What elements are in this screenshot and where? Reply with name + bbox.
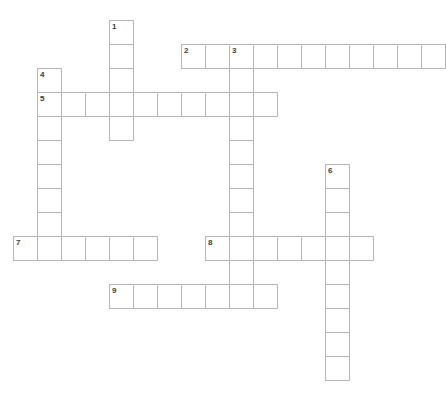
crossword-cell[interactable] (325, 212, 350, 237)
crossword-cell[interactable] (277, 236, 302, 261)
crossword-cell[interactable] (181, 284, 206, 309)
crossword-cell[interactable] (229, 284, 254, 309)
crossword-cell[interactable] (397, 44, 422, 69)
crossword-cell[interactable] (109, 236, 134, 261)
crossword-cell[interactable] (253, 92, 278, 117)
crossword-cell[interactable] (157, 284, 182, 309)
crossword-cell[interactable] (301, 236, 326, 261)
crossword-cell[interactable] (37, 164, 62, 189)
crossword-cell[interactable] (325, 236, 350, 261)
crossword-cell[interactable] (421, 44, 446, 69)
crossword-cell[interactable] (325, 164, 350, 189)
crossword-cell[interactable] (37, 68, 62, 93)
crossword-cell[interactable] (37, 92, 62, 117)
crossword-cell[interactable] (301, 44, 326, 69)
crossword-cell[interactable] (133, 236, 158, 261)
crossword-cell[interactable] (157, 92, 182, 117)
crossword-cell[interactable] (325, 356, 350, 381)
crossword-cell[interactable] (253, 284, 278, 309)
crossword-cell[interactable] (37, 212, 62, 237)
crossword-cell[interactable] (205, 44, 230, 69)
crossword-cell[interactable] (37, 188, 62, 213)
crossword-cell[interactable] (85, 92, 110, 117)
crossword-cell[interactable] (229, 260, 254, 285)
crossword-cell[interactable] (181, 44, 206, 69)
crossword-cell[interactable] (109, 68, 134, 93)
crossword-cell[interactable] (229, 212, 254, 237)
crossword-cell[interactable] (109, 92, 134, 117)
crossword-cell[interactable] (253, 44, 278, 69)
crossword-cell[interactable] (349, 236, 374, 261)
crossword-cell[interactable] (181, 92, 206, 117)
crossword-cell[interactable] (109, 116, 134, 141)
crossword-cell[interactable] (133, 92, 158, 117)
crossword-cell[interactable] (37, 116, 62, 141)
crossword-cell[interactable] (61, 92, 86, 117)
crossword-cell[interactable] (253, 236, 278, 261)
crossword-cell[interactable] (109, 20, 134, 45)
crossword-cell[interactable] (109, 44, 134, 69)
crossword-cell[interactable] (109, 284, 134, 309)
crossword-cell[interactable] (205, 92, 230, 117)
crossword-cell[interactable] (229, 140, 254, 165)
crossword-cell[interactable] (205, 284, 230, 309)
crossword-cell[interactable] (85, 236, 110, 261)
crossword-cell[interactable] (133, 284, 158, 309)
crossword-cell[interactable] (325, 284, 350, 309)
crossword-cell[interactable] (229, 68, 254, 93)
crossword-cell[interactable] (325, 188, 350, 213)
crossword-cell[interactable] (349, 44, 374, 69)
crossword-cell[interactable] (229, 92, 254, 117)
crossword-cell[interactable] (325, 44, 350, 69)
crossword-cell[interactable] (325, 308, 350, 333)
crossword-cell[interactable] (373, 44, 398, 69)
crossword-cell[interactable] (205, 236, 230, 261)
crossword-cell[interactable] (229, 188, 254, 213)
crossword-cell[interactable] (229, 44, 254, 69)
crossword-cell[interactable] (325, 260, 350, 285)
crossword-cell[interactable] (13, 236, 38, 261)
crossword-cell[interactable] (229, 116, 254, 141)
crossword-cell[interactable] (325, 332, 350, 357)
crossword-cell[interactable] (277, 44, 302, 69)
crossword-cell[interactable] (61, 236, 86, 261)
crossword-cell[interactable] (229, 236, 254, 261)
crossword-cell[interactable] (229, 164, 254, 189)
crossword-cell[interactable] (37, 140, 62, 165)
crossword-cell[interactable] (37, 236, 62, 261)
